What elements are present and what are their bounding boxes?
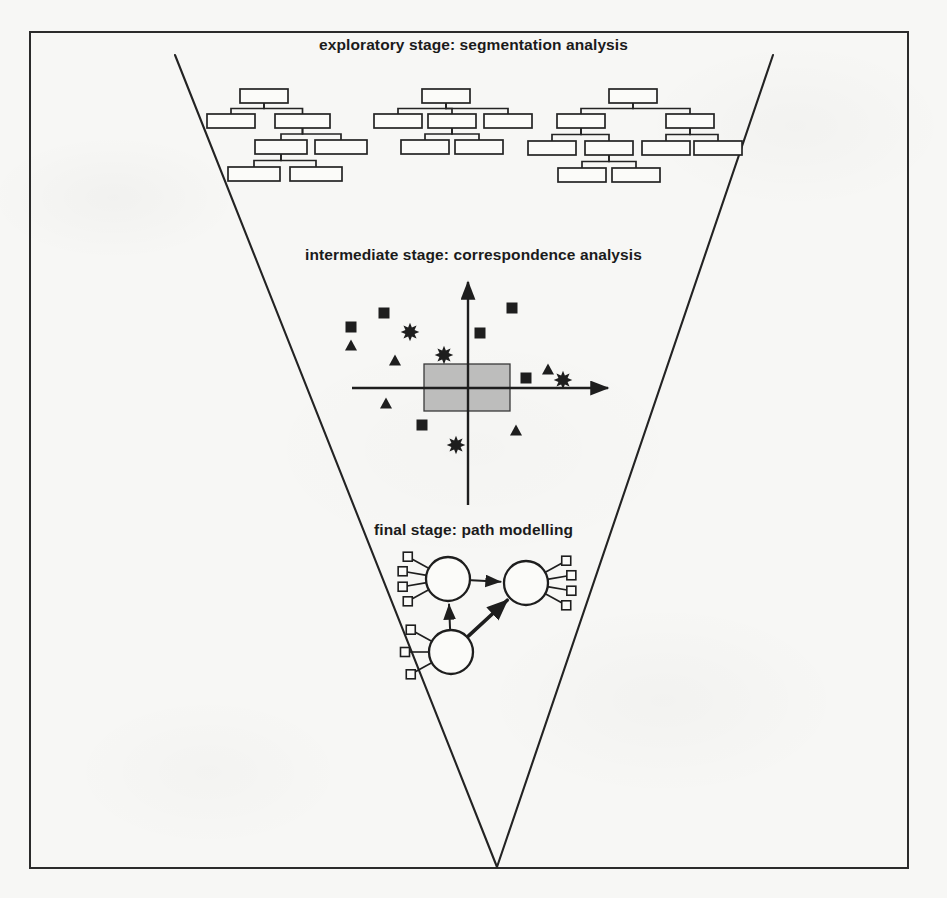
- indicator-square: [398, 582, 407, 591]
- tree-node-box: [557, 114, 605, 128]
- tree-node-box: [290, 167, 342, 181]
- tree-node-box: [455, 140, 503, 154]
- indicator-square: [406, 625, 415, 634]
- tree-node-box: [528, 141, 576, 155]
- tree-node-box: [642, 141, 690, 155]
- tree-node-box: [255, 140, 307, 154]
- tree-link: [264, 103, 303, 114]
- tree-link: [581, 128, 609, 141]
- segmentation-tree-1: [207, 89, 367, 181]
- indicator-square: [398, 567, 407, 576]
- scatter-marker-square: [417, 420, 428, 431]
- indicator-square: [403, 552, 412, 561]
- tree-node-box: [315, 140, 367, 154]
- indicator-square: [562, 601, 571, 610]
- structural-path-lv-bottom-to-lv-left: [449, 604, 450, 628]
- tree-node-box: [609, 89, 657, 103]
- figure-page: exploratory stage: segmentation analysis…: [0, 0, 947, 898]
- tree-node-box: [401, 140, 449, 154]
- structural-path-lv-bottom-to-lv-right: [468, 600, 507, 636]
- tree-link: [690, 128, 718, 141]
- scatter-marker-star: [401, 323, 420, 342]
- tree-link: [581, 103, 633, 114]
- path-model-diagram: [398, 552, 576, 679]
- segmentation-trees: [207, 89, 742, 182]
- tree-node-box: [207, 114, 255, 128]
- tree-node-box: [228, 167, 280, 181]
- scatter-marker-star: [435, 346, 454, 365]
- scatter-marker-square: [521, 373, 532, 384]
- tree-node-box: [374, 114, 422, 128]
- tree-link: [633, 103, 690, 114]
- tree-node-box: [240, 89, 288, 103]
- tree-node-box: [422, 89, 470, 103]
- tree-link: [609, 155, 636, 168]
- scatter-marker-triangle: [510, 424, 522, 435]
- tree-node-box: [612, 168, 660, 182]
- tree-link: [281, 154, 316, 167]
- indicator-square: [406, 670, 415, 679]
- indicator-square: [401, 648, 410, 657]
- tree-node-box: [275, 114, 330, 128]
- tree-link: [254, 154, 281, 167]
- tree-link: [552, 128, 581, 141]
- figure-artwork: [0, 0, 947, 898]
- latent-variable-circle: [426, 557, 470, 601]
- scatter-marker-triangle: [389, 354, 401, 365]
- tree-node-box: [558, 168, 606, 182]
- label-exploratory-stage: exploratory stage: segmentation analysis: [0, 36, 947, 54]
- scatter-marker-star: [447, 436, 466, 455]
- latent-variable-circle: [429, 630, 473, 674]
- tree-link: [303, 128, 342, 140]
- tree-link: [452, 128, 479, 140]
- label-intermediate-stage: intermediate stage: correspondence analy…: [0, 246, 947, 264]
- tree-link: [446, 103, 508, 114]
- scatter-marker-square: [507, 303, 518, 314]
- tree-link: [281, 128, 303, 140]
- tree-link: [398, 103, 446, 114]
- segmentation-tree-3: [528, 89, 742, 182]
- indicator-square: [567, 571, 576, 580]
- scatter-marker-square: [475, 328, 486, 339]
- scatter-marker-triangle: [345, 339, 357, 350]
- tree-link: [231, 103, 264, 114]
- indicator-square: [567, 586, 576, 595]
- tree-node-box: [484, 114, 532, 128]
- scatter-marker-star: [554, 371, 573, 390]
- tree-node-box: [666, 114, 714, 128]
- correspondence-scatter-plot: [345, 282, 608, 505]
- scatter-marker-triangle: [542, 363, 554, 374]
- structural-path-lv-left-to-lv-right: [471, 580, 500, 581]
- tree-link: [582, 155, 609, 168]
- scatter-marker-square: [379, 308, 390, 319]
- segmentation-tree-2: [374, 89, 532, 154]
- scatter-marker-triangle: [380, 397, 392, 408]
- indicator-square: [562, 556, 571, 565]
- scatter-marker-square: [346, 322, 357, 333]
- tree-node-box: [694, 141, 742, 155]
- label-final-stage: final stage: path modelling: [0, 521, 947, 539]
- tree-link: [666, 128, 690, 141]
- tree-link: [425, 128, 452, 140]
- indicator-square: [403, 597, 412, 606]
- tree-node-box: [428, 114, 476, 128]
- latent-variable-circle: [504, 561, 548, 605]
- tree-node-box: [585, 141, 633, 155]
